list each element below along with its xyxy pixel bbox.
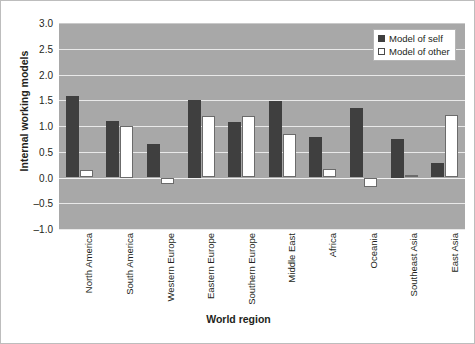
bar-model-of-other [445,115,458,178]
chart-legend: Model of self Model of other [373,29,456,61]
y-axis-tick-label: –0.5 [19,198,53,209]
bar-model-of-self [269,101,282,177]
y-axis-tick-label: 1.0 [19,121,53,132]
legend-swatch-self-icon [378,35,385,42]
bar-model-of-self [228,122,241,178]
x-axis-tick-label: Eastern Europe [205,233,216,299]
bar-model-of-self [350,108,363,178]
y-axis-tick-label: 0.5 [19,146,53,157]
bar-model-of-other [283,134,296,178]
bar-model-of-other [364,178,377,187]
legend-item-model-of-other: Model of other [378,46,450,57]
x-axis-tick-label: North America [83,233,94,293]
x-axis-tick-label: Western Europe [165,233,176,301]
legend-label-other: Model of other [389,46,450,57]
x-axis-tick-label: Oceania [368,233,379,268]
bar-model-of-other [80,170,93,178]
bar-model-of-self [106,121,119,178]
y-axis-tick-label: 3.0 [19,18,53,29]
y-axis-tick-label: 1.5 [19,95,53,106]
bar-model-of-other [202,116,215,178]
bar-model-of-self [391,139,404,178]
bar-model-of-self [431,163,444,177]
bar-model-of-other [323,169,336,178]
x-axis-tick-label: Middle East [286,233,297,283]
y-axis-tick-label: 2.5 [19,43,53,54]
x-axis-title: World region [1,313,475,325]
x-axis-tick-label: Southern Europe [246,233,257,305]
y-axis-tick-labels: 3.02.52.01.51.00.50.0–0.5–1.0 [19,1,53,344]
bar-model-of-other [161,178,174,184]
bar-model-of-self [147,144,160,177]
bar-model-of-other [242,116,255,178]
x-axis-tick-label: Africa [327,233,338,257]
bar-model-of-other [405,175,418,178]
x-axis-tick-labels: North AmericaSouth AmericaWestern Europe… [59,229,465,313]
legend-swatch-other-icon [378,48,385,55]
y-axis-tick-label: –1.0 [19,224,53,235]
bar-model-of-self [66,96,79,177]
legend-label-self: Model of self [389,33,443,44]
bar-model-of-self [309,137,322,177]
x-axis-tick-label: Southeast Asia [408,233,419,296]
y-axis-tick-label: 0.0 [19,172,53,183]
x-axis-tick-label: South America [124,233,135,295]
legend-item-model-of-self: Model of self [378,33,450,44]
bar-model-of-other [120,126,133,178]
x-axis-tick-label: East Asia [449,233,460,273]
y-axis-tick-label: 2.0 [19,69,53,80]
chart-figure: Internal working models 3.02.52.01.51.00… [0,0,475,344]
bar-model-of-self [188,100,201,177]
